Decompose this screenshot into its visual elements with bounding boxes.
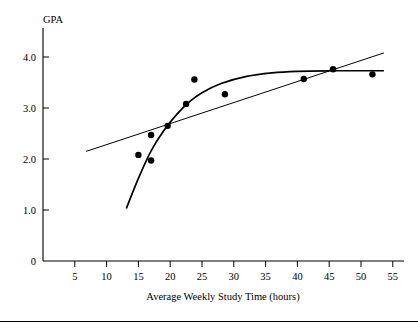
data-point [148,132,154,138]
x-tick-label: 30 [229,271,240,282]
data-point [148,157,154,163]
x-tick-label: 10 [101,271,112,282]
x-axis-ticks: 510152025303540455055 [72,261,398,282]
y-tick-label: 0 [31,256,36,267]
chart-figure: GPA 01.02.03.04.0 510152025303540455055 … [0,0,418,328]
data-point [191,76,197,82]
scatter-plot: GPA 01.02.03.04.0 510152025303540455055 … [0,0,418,328]
x-tick-label: 15 [133,271,144,282]
x-axis-title: Average Weekly Study Time (hours) [146,291,300,303]
x-tick-label: 50 [356,271,367,282]
data-point [164,123,170,129]
footer-divider [0,321,418,322]
y-axis-title: GPA [43,14,63,25]
y-tick-label: 4.0 [23,52,36,63]
x-tick-label: 55 [388,271,399,282]
data-points [135,66,375,164]
y-tick-label: 2.0 [23,154,36,165]
x-tick-label: 5 [72,271,77,282]
data-point [369,71,375,77]
y-tick-label: 3.0 [23,103,36,114]
x-tick-label: 20 [165,271,176,282]
y-axis-ticks: 01.02.03.04.0 [23,52,49,267]
y-tick-label: 1.0 [23,205,36,216]
data-point [222,91,228,97]
x-tick-label: 25 [197,271,208,282]
nonlinear-fit-curve [126,71,384,209]
linear-fit-line [86,53,384,151]
data-point [183,101,189,107]
data-point [330,66,336,72]
x-tick-label: 35 [260,271,271,282]
x-tick-label: 45 [324,271,335,282]
data-point [301,76,307,82]
x-tick-label: 40 [292,271,303,282]
data-point [135,152,141,158]
